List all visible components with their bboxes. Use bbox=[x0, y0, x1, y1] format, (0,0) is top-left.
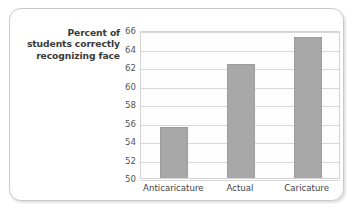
bar[interactable] bbox=[294, 37, 322, 178]
x-axis-tick-label: Caricature bbox=[284, 183, 329, 193]
y-axis-title-line-1: Percent of bbox=[16, 27, 120, 38]
x-axis-tick-label: Anticaricature bbox=[143, 183, 203, 193]
bar-slot bbox=[208, 32, 275, 178]
y-axis-tick-label: 64 bbox=[116, 45, 136, 55]
y-axis-title-line-2: students correctly bbox=[16, 38, 120, 49]
y-axis-tick-label: 50 bbox=[116, 174, 136, 184]
bar[interactable] bbox=[160, 127, 188, 178]
y-axis-tick-label: 66 bbox=[116, 26, 136, 36]
bar[interactable] bbox=[227, 64, 255, 178]
y-axis-tick-labels: 666462605856545250 bbox=[116, 31, 136, 179]
bar-series bbox=[141, 32, 339, 178]
y-axis-title-line-3: recognizing face bbox=[16, 50, 120, 61]
y-axis-tick-label: 54 bbox=[116, 137, 136, 147]
gridline bbox=[141, 180, 339, 181]
bar-slot bbox=[274, 32, 341, 178]
y-axis-tick-label: 60 bbox=[116, 82, 136, 92]
y-axis-tick-label: 58 bbox=[116, 100, 136, 110]
x-axis-tick-label: Actual bbox=[227, 183, 254, 193]
figure-card: Percent of students correctly recognizin… bbox=[9, 8, 344, 201]
y-axis-title: Percent of students correctly recognizin… bbox=[16, 27, 120, 61]
bar-slot bbox=[141, 32, 208, 178]
plot-area bbox=[140, 31, 340, 179]
y-axis-tick-label: 52 bbox=[116, 156, 136, 166]
x-axis-tick-labels: AnticaricatureActualCaricature bbox=[140, 183, 340, 199]
y-axis-tick-label: 62 bbox=[116, 63, 136, 73]
y-axis-tick-label: 56 bbox=[116, 119, 136, 129]
